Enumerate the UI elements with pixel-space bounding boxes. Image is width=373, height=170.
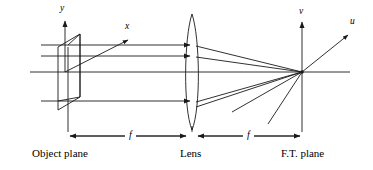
object-x-axis-label: x bbox=[125, 22, 129, 32]
env-top-connector bbox=[68, 34, 80, 45]
ft-u-axis bbox=[302, 35, 348, 72]
ft-u-axis-label: u bbox=[350, 17, 355, 27]
ft-v-axis-label: v bbox=[299, 7, 303, 17]
dimension-label-f1: f bbox=[125, 130, 136, 140]
lens-label: Lens bbox=[180, 148, 201, 159]
object-y-axis-label: y bbox=[60, 4, 64, 14]
ft-plane-axes bbox=[302, 22, 348, 72]
object-plane-label: Object plane bbox=[32, 148, 88, 159]
plane-tick-lines bbox=[68, 72, 302, 132]
converging-rays bbox=[196, 46, 302, 124]
object-ray-envelope bbox=[58, 34, 80, 101]
diagram-canvas bbox=[0, 0, 373, 170]
dimension-label-f2: f bbox=[243, 130, 254, 140]
diagram-strokes bbox=[30, 14, 350, 136]
ft-plane-label: F.T. plane bbox=[281, 148, 324, 159]
ray-out-4 bbox=[196, 72, 302, 107]
object-plane-axes bbox=[65, 21, 128, 72]
ray-out-3 bbox=[196, 72, 302, 102]
optical-diagram: y x v u f f Object plane Lens F.T. plane bbox=[0, 0, 373, 170]
incoming-rays bbox=[41, 45, 190, 101]
